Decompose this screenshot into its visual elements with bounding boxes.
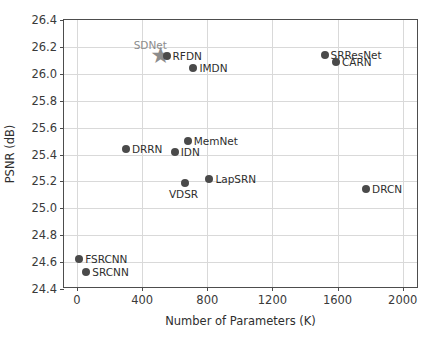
x-tick-label: 2000 [388, 293, 417, 307]
y-tick-label: 25.0 [31, 201, 57, 215]
y-tick-label: 25.8 [31, 94, 57, 108]
x-tick [207, 287, 208, 291]
gridline-vertical [272, 20, 273, 287]
data-point-label: VDSR [169, 188, 198, 200]
data-point-label: IDN [181, 146, 200, 158]
data-point [82, 268, 90, 276]
data-point [171, 148, 179, 156]
data-point-label: SDNet [134, 39, 167, 51]
data-point [321, 51, 329, 59]
data-point-label: IMDN [199, 62, 227, 74]
data-point-label: CARN [342, 56, 372, 68]
x-tick-label: 1600 [323, 293, 352, 307]
y-tick [60, 128, 64, 129]
scatter-plot-figure: PSNR (dB) 24.424.624.825.025.225.425.625… [0, 0, 435, 337]
y-tick [60, 262, 64, 263]
data-point [181, 179, 189, 187]
data-point [184, 137, 192, 145]
x-tick-label: 1200 [258, 293, 287, 307]
data-point [122, 145, 130, 153]
x-tick [272, 287, 273, 291]
gridline-horizontal [64, 128, 417, 129]
y-tick-label: 26.4 [31, 13, 57, 27]
y-tick-label: 25.6 [31, 121, 57, 135]
x-tick [142, 287, 143, 291]
gridline-horizontal [64, 47, 417, 48]
y-tick [60, 20, 64, 21]
gridline-vertical [77, 20, 78, 287]
gridline-horizontal [64, 74, 417, 75]
gridline-vertical [403, 20, 404, 287]
y-tick [60, 181, 64, 182]
data-point-label: SRCNN [92, 266, 128, 278]
y-axis-title-text: PSNR (dB) [3, 124, 17, 183]
data-point [189, 64, 197, 72]
data-point [163, 52, 171, 60]
y-tick-label: 26.0 [31, 67, 57, 81]
data-point-label: DRCN [372, 183, 402, 195]
gridline-horizontal [64, 208, 417, 209]
y-tick [60, 74, 64, 75]
y-tick [60, 101, 64, 102]
x-axis-title: Number of Parameters (K) [63, 314, 418, 328]
data-point [362, 185, 370, 193]
data-point-label: MemNet [194, 135, 238, 147]
y-tick-label: 25.2 [31, 174, 57, 188]
x-tick [77, 287, 78, 291]
data-point-label: DRRN [132, 143, 163, 155]
y-axis-title: PSNR (dB) [2, 19, 18, 288]
x-tick-label: 0 [73, 293, 80, 307]
plot-area: 24.424.624.825.025.225.425.625.826.026.2… [63, 19, 418, 288]
gridline-horizontal [64, 155, 417, 156]
x-tick-label: 400 [131, 293, 153, 307]
x-axis-title-text: Number of Parameters (K) [165, 314, 316, 328]
y-tick-label: 26.2 [31, 40, 57, 54]
y-tick-label: 24.8 [31, 228, 57, 242]
y-tick [60, 47, 64, 48]
y-tick [60, 289, 64, 290]
data-point-label: RFDN [173, 50, 202, 62]
y-tick-label: 24.4 [31, 282, 57, 296]
gridline-vertical [207, 20, 208, 287]
data-point [332, 58, 340, 66]
data-point-label: LapSRN [215, 173, 256, 185]
y-tick [60, 208, 64, 209]
y-tick [60, 235, 64, 236]
x-tick-label: 800 [196, 293, 218, 307]
gridline-horizontal [64, 235, 417, 236]
gridline-horizontal [64, 101, 417, 102]
y-tick-label: 25.4 [31, 148, 57, 162]
data-point-label: FSRCNN [85, 253, 127, 265]
y-tick [60, 155, 64, 156]
x-tick [338, 287, 339, 291]
y-tick-label: 24.6 [31, 255, 57, 269]
x-tick [403, 287, 404, 291]
